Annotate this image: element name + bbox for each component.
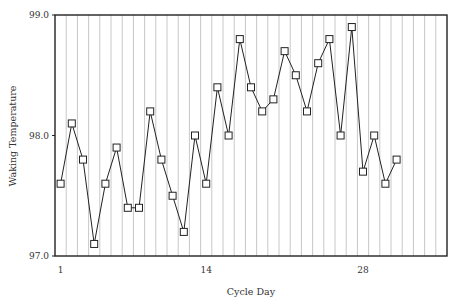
data-point-marker bbox=[147, 108, 154, 115]
data-point-marker bbox=[102, 180, 109, 187]
data-point-marker bbox=[304, 108, 311, 115]
data-point-marker bbox=[281, 48, 288, 55]
y-tick-label: 97.0 bbox=[29, 251, 49, 261]
data-point-marker bbox=[91, 240, 98, 247]
data-point-marker bbox=[292, 72, 299, 79]
x-tick-label: 28 bbox=[357, 265, 369, 275]
grid-lines bbox=[66, 15, 436, 256]
y-tick-label: 99.0 bbox=[29, 10, 49, 20]
data-point-marker bbox=[80, 156, 87, 163]
y-axis-ticks: 97.098.099.0 bbox=[29, 10, 55, 261]
temperature-chart: 97.098.099.0 11428 Cycle Day Waking Temp… bbox=[0, 0, 455, 308]
data-point-marker bbox=[136, 204, 143, 211]
data-point-marker bbox=[68, 120, 75, 127]
data-point-marker bbox=[371, 132, 378, 139]
x-tick-label: 14 bbox=[200, 265, 212, 275]
plot-frame bbox=[55, 15, 447, 256]
data-point-marker bbox=[348, 24, 355, 31]
data-point-marker bbox=[158, 156, 165, 163]
data-point-marker bbox=[124, 204, 131, 211]
y-axis-title: Waking Temperature bbox=[7, 85, 18, 186]
data-point-marker bbox=[113, 144, 120, 151]
x-tick-label: 1 bbox=[58, 265, 64, 275]
data-point-marker bbox=[360, 168, 367, 175]
x-axis-ticks: 11428 bbox=[58, 265, 369, 275]
data-point-marker bbox=[169, 192, 176, 199]
y-tick-label: 98.0 bbox=[29, 131, 49, 141]
data-point-marker bbox=[259, 108, 266, 115]
data-point-marker bbox=[248, 84, 255, 91]
x-axis-title: Cycle Day bbox=[227, 286, 276, 297]
data-point-marker bbox=[326, 36, 333, 43]
data-point-marker bbox=[270, 96, 277, 103]
data-point-marker bbox=[236, 36, 243, 43]
data-point-marker bbox=[315, 60, 322, 67]
data-point-marker bbox=[192, 132, 199, 139]
data-point-marker bbox=[214, 84, 221, 91]
data-point-marker bbox=[57, 180, 64, 187]
data-point-marker bbox=[225, 132, 232, 139]
data-point-marker bbox=[203, 180, 210, 187]
data-point-marker bbox=[393, 156, 400, 163]
data-point-marker bbox=[382, 180, 389, 187]
data-point-marker bbox=[337, 132, 344, 139]
data-point-marker bbox=[180, 228, 187, 235]
